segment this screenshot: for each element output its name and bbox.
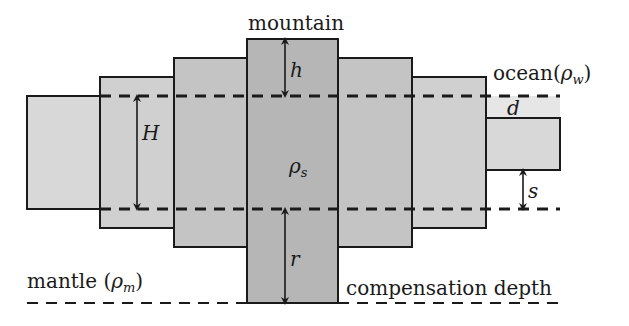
isostasy-diagram: mountain ocean(ρw) h H ρs r d s mantle (… — [0, 0, 629, 326]
compensation-depth-label: compensation depth — [346, 276, 552, 300]
r-label: r — [290, 247, 301, 271]
h-label: h — [290, 58, 303, 82]
s-label: s — [528, 179, 538, 203]
ocean-label: ocean(ρw) — [493, 61, 591, 87]
block-3 — [174, 58, 247, 247]
d-label: d — [507, 96, 520, 120]
block-left — [27, 96, 100, 209]
block-5 — [338, 58, 412, 247]
block-6 — [412, 77, 486, 228]
ocean-water — [486, 96, 560, 118]
H-label: H — [141, 121, 160, 145]
mountain-label: mountain — [248, 11, 344, 35]
block-right-ocean — [486, 118, 560, 170]
mantle-label: mantle (ρm) — [27, 269, 143, 295]
